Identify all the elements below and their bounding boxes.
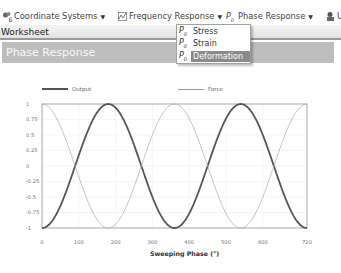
x-axis-title: Sweeping Phase (°) (0, 250, 341, 257)
phase-response-chart (0, 0, 341, 273)
